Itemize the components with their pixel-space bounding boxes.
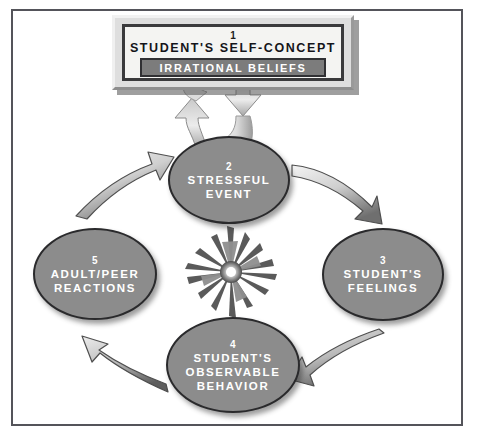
node-adult-peer-reactions-number: 5: [92, 254, 98, 267]
node-students-feelings-line-1: STUDENT'S: [343, 267, 422, 281]
irrational-beliefs-banner: IRRATIONAL BELIEFS: [140, 58, 326, 77]
node-stressful-event-line-1: STRESSFUL: [188, 173, 271, 187]
arrow-stressful-event-to-feelings: [292, 165, 382, 224]
node-observable-behavior: 4 STUDENT'S OBSERVABLE BEHAVIOR: [166, 317, 300, 413]
irrational-beliefs-label: IRRATIONAL BELIEFS: [160, 62, 307, 74]
node-observable-behavior-line-2: OBSERVABLE: [186, 365, 281, 379]
node-adult-peer-reactions-line-2: REACTIONS: [54, 281, 136, 295]
concept-box-inner: 1 STUDENT'S SELF-CONCEPT IRRATIONAL BELI…: [122, 24, 344, 81]
concept-box-title: STUDENT'S SELF-CONCEPT: [130, 41, 336, 55]
node-observable-behavior-line-1: STUDENT'S: [193, 351, 272, 365]
node-stressful-event-number: 2: [226, 160, 232, 173]
node-adult-peer-reactions: 5 ADULT/PEER REACTIONS: [33, 228, 157, 320]
node-observable-behavior-line-3: BEHAVIOR: [197, 379, 270, 393]
node-observable-behavior-number: 4: [230, 338, 236, 351]
node-students-feelings-line-2: FEELINGS: [348, 281, 418, 295]
diagram-root: 1 STUDENT'S SELF-CONCEPT IRRATIONAL BELI…: [0, 0, 482, 438]
concept-box-number: 1: [230, 30, 236, 41]
node-stressful-event: 2 STRESSFUL EVENT: [168, 136, 290, 224]
node-adult-peer-reactions-line-1: ADULT/PEER: [51, 267, 140, 281]
node-students-feelings: 3 STUDENT'S FEELINGS: [322, 228, 444, 321]
node-stressful-event-line-2: EVENT: [206, 187, 252, 201]
arrow-feelings-to-behavior: [288, 329, 384, 386]
central-starburst: [185, 226, 277, 318]
arrow-reactions-to-stressful-event: [76, 152, 174, 219]
concept-box: 1 STUDENT'S SELF-CONCEPT IRRATIONAL BELI…: [112, 15, 354, 90]
node-students-feelings-number: 3: [380, 254, 386, 267]
arrow-behavior-to-reactions: [82, 336, 168, 392]
